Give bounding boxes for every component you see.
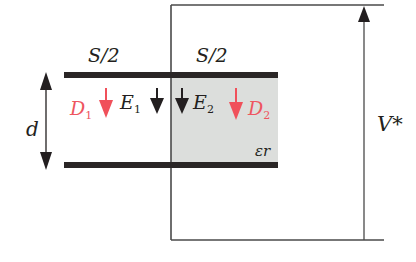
voltage-arrow <box>358 6 370 240</box>
d1-arrow <box>99 88 113 118</box>
gap-arrow <box>40 72 52 170</box>
dielectric-label: εr <box>255 142 271 160</box>
left-area-label: S/2 <box>88 44 120 66</box>
voltage-label: V* <box>377 112 403 136</box>
d1-label: D1 <box>69 97 92 122</box>
e1-arrow <box>150 88 164 114</box>
gap-label: d <box>26 117 39 141</box>
bottom-plate <box>64 162 278 168</box>
e1-label: E1 <box>119 91 141 116</box>
capacitor-diagram: V* d S/2 S/2 D1 E1 E2 D2 εr <box>0 0 416 262</box>
right-area-label: S/2 <box>196 44 228 66</box>
top-plate <box>64 72 278 78</box>
